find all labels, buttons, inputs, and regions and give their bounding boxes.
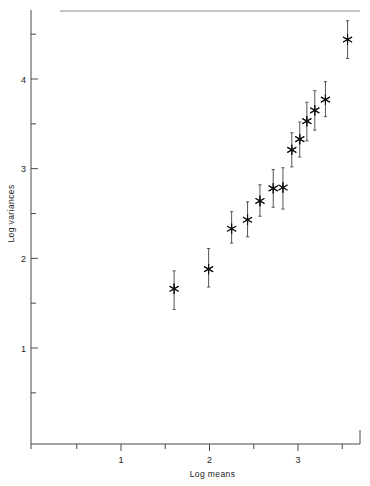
- data-point-marker: [287, 145, 296, 155]
- data-point-marker: [310, 105, 319, 115]
- marker-center: [258, 199, 261, 202]
- data-point-marker: [302, 116, 311, 126]
- marker-center: [281, 186, 284, 189]
- marker-center: [298, 138, 301, 141]
- y-axis-tick-label: 2: [21, 254, 26, 264]
- data-point-group: [170, 34, 352, 294]
- x-axis-title: Log means: [190, 469, 236, 479]
- data-point-marker: [295, 134, 304, 144]
- x-axis-tick-label: 2: [207, 455, 212, 465]
- data-point-marker: [321, 94, 330, 104]
- y-axis-tick-label: 4: [21, 75, 26, 85]
- data-point-marker: [269, 183, 278, 193]
- data-point-marker: [227, 224, 236, 234]
- scatter-plot-figure: 1234123Log meansLog variances: [0, 0, 370, 486]
- y-axis-title: Log variances: [6, 184, 16, 242]
- data-point-marker: [255, 196, 264, 206]
- marker-center: [173, 287, 176, 290]
- marker-center: [313, 109, 316, 112]
- marker-center: [305, 120, 308, 123]
- y-axis-tick-label: 3: [21, 164, 26, 174]
- marker-center: [290, 148, 293, 151]
- x-axis-tick-label: 1: [118, 455, 123, 465]
- marker-center: [207, 268, 210, 271]
- error-bar-group: [173, 21, 350, 310]
- marker-center: [324, 98, 327, 101]
- marker-center: [246, 218, 249, 221]
- marker-center: [346, 38, 349, 41]
- x-axis-tick-label: 3: [295, 455, 300, 465]
- marker-center: [230, 227, 233, 230]
- data-point-marker: [243, 215, 252, 225]
- plot-canvas: 1234123Log meansLog variances: [0, 0, 370, 486]
- data-point-marker: [204, 264, 213, 274]
- y-axis-tick-label: 1: [21, 344, 26, 354]
- data-point-marker: [278, 182, 287, 192]
- data-point-marker: [343, 34, 352, 44]
- marker-center: [272, 187, 275, 190]
- data-point-marker: [170, 284, 179, 294]
